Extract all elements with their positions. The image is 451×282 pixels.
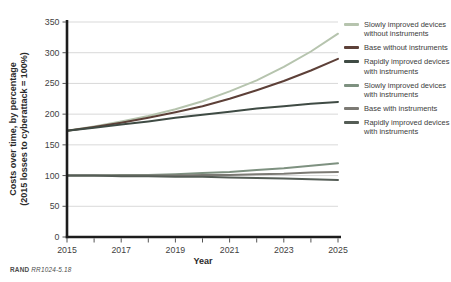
legend-swatch (344, 121, 359, 124)
legend-swatch (344, 84, 359, 87)
y-tick-label: 200 (45, 109, 60, 119)
x-tick-label: 2019 (166, 245, 186, 255)
x-tick-label: 2015 (57, 245, 77, 255)
legend-swatch (344, 107, 359, 110)
legend-label: Rapidly improved devices with instrument… (364, 118, 450, 136)
series-line-5 (67, 176, 338, 180)
y-tick-label: 150 (45, 140, 60, 150)
series-line-0 (67, 34, 338, 131)
legend-label: Rapidly improved devices with instrument… (364, 57, 450, 75)
series-line-1 (67, 59, 338, 131)
source-brand: RAND (10, 266, 29, 273)
y-tick-label: 100 (45, 171, 60, 181)
legend-swatch (344, 46, 359, 49)
legend-item: Base without instruments (344, 43, 450, 52)
legend-item: Slowly improved devices with instruments (344, 81, 450, 99)
tick-layer (63, 22, 339, 243)
y-tick-label: 50 (50, 201, 60, 211)
x-tick-label: 2017 (111, 245, 131, 255)
legend-item: Rapidly improved devices with instrument… (344, 57, 450, 75)
series-layer (67, 34, 338, 180)
legend-label: Slowly improved devices with instruments (364, 81, 450, 99)
y-tick-label: 0 (55, 232, 60, 242)
y-tick-label: 250 (45, 78, 60, 88)
y-tick-label: 300 (45, 48, 60, 58)
y-axis-label-line2: (2015 losses to cyberattack = 100%) (19, 52, 29, 205)
y-axis-label-line1: Costs over time, by percentage (8, 62, 18, 196)
legend-item: Base with instruments (344, 104, 450, 113)
chart-legend: Slowly improved devices without instrume… (344, 20, 450, 136)
legend-item: Rapidly improved devices with instrument… (344, 118, 450, 136)
legend-label: Base with instruments (364, 104, 437, 113)
legend-label: Base without instruments (364, 43, 448, 52)
legend-swatch (344, 23, 359, 26)
x-axis-label: Year (193, 256, 213, 266)
chart-figure: 0501001502002503003502015201720192021202… (0, 0, 451, 282)
y-tick-label: 350 (45, 17, 60, 27)
x-tick-label: 2021 (220, 245, 240, 255)
x-tick-label: 2023 (274, 245, 294, 255)
source-id: RR1024-5.18 (31, 266, 71, 273)
legend-label: Slowly improved devices without instrume… (364, 20, 450, 38)
legend-swatch (344, 60, 359, 63)
legend-item: Slowly improved devices without instrume… (344, 20, 450, 38)
x-tick-label: 2025 (328, 245, 348, 255)
source-caption: RAND RR1024-5.18 (10, 266, 71, 273)
